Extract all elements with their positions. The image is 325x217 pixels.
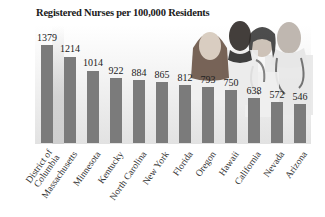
bar-north-carolina (133, 80, 145, 143)
bar-new-york (156, 82, 168, 143)
value-label: 1379 (32, 32, 62, 43)
value-label: 546 (285, 91, 315, 102)
bar-kentucky (110, 78, 122, 143)
value-label: 1214 (55, 43, 85, 54)
bar-nevada (271, 102, 283, 143)
bar-florida (179, 85, 191, 143)
bar-minnesota (87, 71, 99, 143)
bar-california (248, 98, 260, 143)
bar-oregon (202, 87, 214, 143)
bar-hawaii (225, 90, 237, 143)
bar-district-of-columbia (41, 45, 53, 143)
bar-massachusetts (64, 57, 76, 143)
bar-arizona (294, 104, 306, 143)
